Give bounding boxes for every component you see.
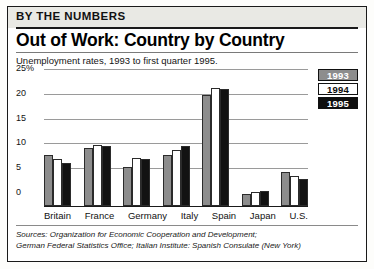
chart-legend: 1993 1994 1995 (318, 69, 360, 111)
bar-group (242, 82, 269, 206)
bar-france-1995 (102, 146, 111, 207)
sources-line-1: Sources: Organization for Economic Coope… (16, 229, 360, 240)
y-axis-tick: 10 (16, 137, 42, 147)
x-axis-label-britain: Britain (44, 210, 71, 221)
x-axis-label-japan: Japan (250, 210, 276, 221)
bar-germany-1993 (123, 167, 132, 206)
x-axis-labels: BritainFranceGermanyItalySpainJapanU.S. (44, 210, 308, 221)
bar-france-1993 (84, 148, 93, 206)
x-axis-label-germany: Germany (128, 210, 167, 221)
bar-germany-1994 (132, 158, 141, 206)
x-axis-label-italy: Italy (181, 210, 198, 221)
page-title: Out of Work: Country by Country (16, 30, 285, 51)
bar-groups (44, 82, 308, 206)
bar-japan-1994 (251, 192, 260, 206)
bar-group (44, 82, 71, 206)
bar-us-1993 (281, 172, 290, 206)
bar-us-1995 (299, 179, 308, 206)
bar-japan-1993 (242, 194, 251, 206)
sources-divider (16, 225, 358, 226)
sources-line-2: German Federal Statistics Office; Italia… (16, 240, 360, 251)
legend-item-1993: 1993 (318, 69, 358, 81)
bar-britain-1993 (44, 155, 53, 206)
bar-france-1994 (93, 145, 102, 206)
y-axis-tick: 25% (16, 63, 42, 73)
x-axis-line (44, 206, 308, 207)
bar-spain-1995 (220, 89, 229, 206)
chart-subtitle: Unemployment rates, 1993 to first quarte… (16, 55, 218, 66)
x-axis-label-spain: Spain (212, 210, 236, 221)
bar-us-1994 (290, 176, 299, 206)
bar-group (123, 82, 150, 206)
bar-japan-1995 (260, 191, 269, 206)
bar-spain-1993 (202, 95, 211, 206)
bar-britain-1995 (62, 163, 71, 206)
screenshot-page: BY THE NUMBERS Out of Work: Country by C… (0, 0, 374, 269)
chart-plot-area: 25% 20 15 10 5 0 (16, 69, 308, 207)
kicker-divider (16, 27, 358, 29)
bar-group (163, 82, 190, 206)
bar-italy-1993 (163, 155, 172, 206)
y-axis-tick: 15 (16, 113, 42, 123)
bar-group (202, 82, 229, 206)
x-axis-label-france: France (85, 210, 115, 221)
bar-italy-1994 (172, 150, 181, 206)
legend-item-1995: 1995 (318, 97, 358, 109)
y-axis-tick: 20 (16, 88, 42, 98)
sources-note: Sources: Organization for Economic Coope… (16, 229, 360, 251)
bar-italy-1995 (181, 146, 190, 206)
headline-divider (16, 52, 358, 53)
bar-germany-1995 (141, 159, 150, 206)
kicker-label: BY THE NUMBERS (16, 10, 126, 22)
bar-group (281, 82, 308, 206)
infographic-frame: BY THE NUMBERS Out of Work: Country by C… (7, 6, 367, 262)
bar-spain-1994 (211, 88, 220, 206)
legend-item-1994: 1994 (318, 83, 358, 95)
bar-group (84, 82, 111, 206)
gridline (44, 69, 308, 70)
y-axis-tick: 5 (16, 162, 42, 172)
y-axis-tick: 0 (16, 187, 42, 197)
bar-britain-1994 (53, 159, 62, 206)
x-axis-label-us: U.S. (289, 210, 307, 221)
